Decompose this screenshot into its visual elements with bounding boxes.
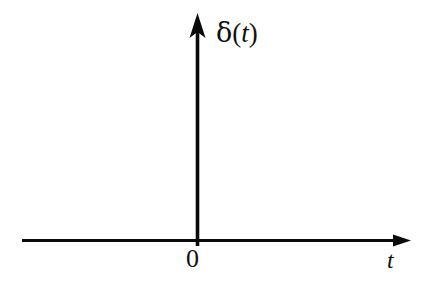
delta-function-label: δ(t)	[216, 19, 258, 47]
origin-label: 0	[186, 246, 199, 272]
open-paren: (	[232, 18, 241, 48]
delta-argument-variable: t	[241, 18, 249, 48]
close-paren: )	[249, 18, 258, 48]
delta-symbol: δ	[216, 17, 232, 48]
time-axis-label: t	[387, 248, 394, 272]
horizontal-axis-arrowhead	[393, 235, 411, 247]
dirac-delta-figure: δ(t) 0 t	[0, 0, 432, 289]
